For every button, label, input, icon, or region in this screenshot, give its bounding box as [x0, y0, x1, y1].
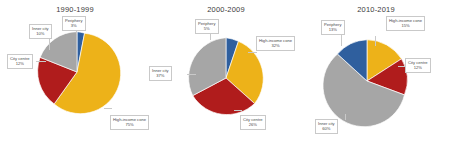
- pie-2010-2019: [324, 38, 410, 124]
- leader-line-periphery: [341, 34, 342, 46]
- callout-city-centre: City centre 26%: [240, 115, 266, 130]
- callout-inner-city: Inner city 60%: [315, 119, 338, 134]
- chart-title-2000-2009: 2000-2009: [151, 5, 301, 14]
- leader-line-inner-city: [345, 114, 346, 120]
- pie-chart-figure: 1990-1999 Inner city 10% Periphery 3% Ci…: [0, 0, 452, 149]
- chart-title-2010-2019: 2010-2019: [301, 5, 451, 14]
- leader-line-inner-city: [49, 38, 50, 50]
- callout-periphery: Periphery 5%: [195, 19, 219, 34]
- pie-svg-1990-1999: [35, 30, 119, 114]
- chart-title-1990-1999: 1990-1999: [0, 5, 150, 14]
- leader-line-city-centre: [234, 110, 242, 111]
- leader-line-high-income-cone: [248, 52, 257, 53]
- leader-line-city-centre: [36, 61, 46, 62]
- pie-1990-1999: [35, 30, 119, 114]
- callout-periphery: Periphery 13%: [321, 20, 345, 35]
- leader-line-high-income-cone: [375, 36, 376, 46]
- callout-high-income-cone: High-income cone 15%: [386, 16, 425, 31]
- leader-line-high-income-cone: [104, 108, 112, 109]
- pie-svg-2010-2019: [324, 38, 410, 124]
- callout-periphery: Periphery 3%: [62, 16, 86, 31]
- callout-city-centre: City centre 12%: [405, 58, 431, 73]
- callout-high-income-cone: High-income cone 75%: [110, 115, 149, 130]
- leader-line-inner-city: [187, 74, 196, 75]
- chart-panel-2010-2019: 2010-2019 Periphery 13% High-income cone…: [301, 0, 451, 149]
- chart-panel-2000-2009: 2000-2009 Periphery 5% High-income cone …: [151, 0, 301, 149]
- chart-panel-1990-1999: 1990-1999 Inner city 10% Periphery 3% Ci…: [0, 0, 150, 149]
- callout-high-income-cone: High-income cone 32%: [256, 36, 295, 51]
- callout-city-centre: City centre 12%: [7, 54, 33, 69]
- callout-inner-city: Inner city 37%: [149, 66, 172, 81]
- callout-inner-city: Inner city 10%: [29, 24, 52, 39]
